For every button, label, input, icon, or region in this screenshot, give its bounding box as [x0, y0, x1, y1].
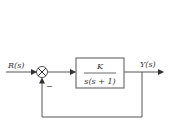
block-denominator: s(s + 1) — [84, 77, 115, 86]
output-label: Y(s) — [140, 60, 156, 69]
feedback-minus-sign: − — [46, 82, 53, 91]
input-label: R(s) — [7, 61, 24, 70]
summing-junction — [37, 67, 48, 78]
block-diagram: R(s) − K s(s + 1) Y(s) — [0, 0, 172, 130]
block-numerator: K — [96, 62, 104, 71]
